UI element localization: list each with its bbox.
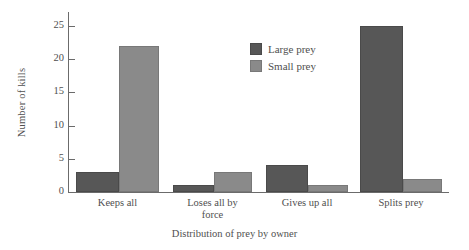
legend-swatch-icon-small-prey bbox=[250, 60, 262, 72]
bar-large-prey bbox=[173, 185, 214, 192]
legend-label-small-prey: Small prey bbox=[268, 60, 316, 72]
x-axis-line bbox=[68, 192, 449, 193]
x-category-label: Splits prey bbox=[341, 197, 461, 209]
bar-chart: Number of kills 0510152025 Keeps allLose… bbox=[0, 0, 469, 250]
y-tick-label: 20 bbox=[24, 53, 64, 64]
bar-small-prey bbox=[403, 179, 442, 192]
y-tick-mark bbox=[69, 92, 75, 93]
y-tick-label: 5 bbox=[24, 153, 64, 164]
x-category-label-line: Splits prey bbox=[341, 197, 461, 209]
bar-small-prey bbox=[214, 172, 252, 192]
y-axis-line bbox=[68, 12, 69, 193]
y-tick-mark bbox=[69, 126, 75, 127]
y-tick-mark bbox=[69, 159, 75, 160]
bar-large-prey bbox=[76, 172, 119, 192]
y-tick-label: 0 bbox=[24, 186, 64, 197]
x-category-label-line: force bbox=[153, 209, 273, 221]
y-tick-mark bbox=[69, 192, 75, 193]
bar-small-prey bbox=[119, 46, 159, 192]
bar-large-prey bbox=[266, 165, 308, 192]
legend-swatch-icon-large-prey bbox=[250, 43, 262, 55]
bar-large-prey bbox=[360, 26, 403, 192]
y-tick-label: 10 bbox=[24, 120, 64, 131]
legend-item-small-prey: Small prey bbox=[250, 57, 316, 74]
legend: Large prey Small prey bbox=[250, 40, 316, 74]
legend-label-large-prey: Large prey bbox=[268, 43, 316, 55]
legend-item-large-prey: Large prey bbox=[250, 40, 316, 57]
bar-small-prey bbox=[308, 185, 348, 192]
y-tick-mark bbox=[69, 59, 75, 60]
y-tick-label: 25 bbox=[24, 20, 64, 31]
x-axis-label: Distribution of prey by owner bbox=[0, 228, 469, 239]
y-tick-label: 15 bbox=[24, 86, 64, 97]
y-tick-mark bbox=[69, 26, 75, 27]
